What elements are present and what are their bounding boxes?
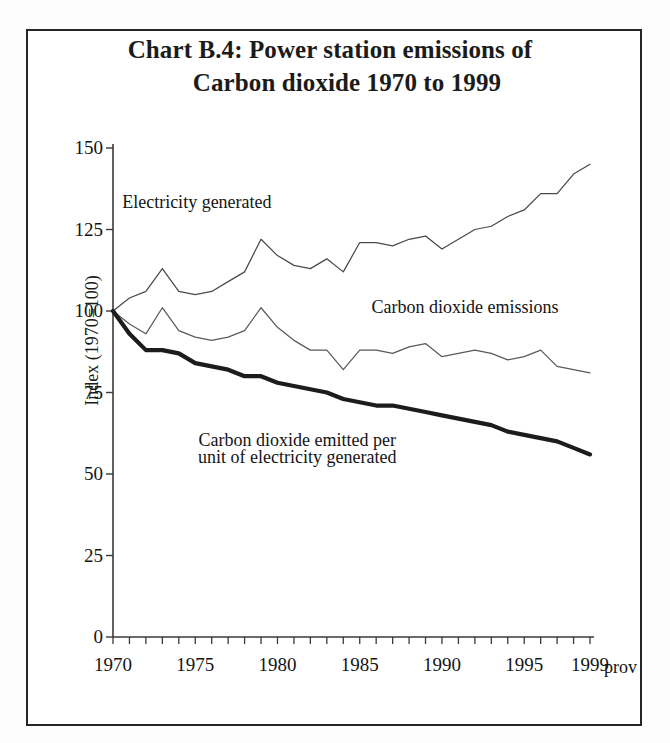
plot-area: Index (1970=100) 1501251007550250 197019… [0, 0, 670, 743]
series-line-0 [113, 164, 590, 311]
chart-canvas [0, 0, 670, 743]
series-line-1 [113, 308, 590, 373]
chart-figure: Chart B.4: Power station emissions of Ca… [0, 0, 670, 743]
